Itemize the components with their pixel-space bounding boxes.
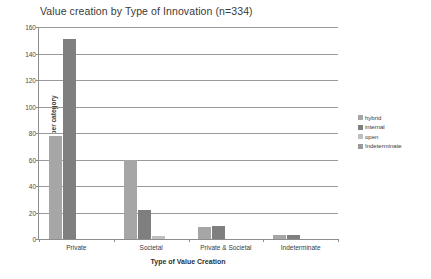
- legend-label: hybrid: [365, 115, 381, 121]
- chart-legend: hybridinternalopenIndeterminate: [358, 113, 402, 151]
- legend-item[interactable]: internal: [358, 123, 402, 132]
- chart-title: Value creation by Type of Innovation (n=…: [40, 5, 253, 17]
- x-tick-label: Societal: [140, 244, 163, 251]
- y-tick-label: 80: [29, 130, 36, 137]
- bar-group: [39, 27, 114, 239]
- y-tick-label: 160: [25, 24, 36, 31]
- x-tick-mark: [338, 239, 339, 242]
- y-tick-label: 20: [29, 209, 36, 216]
- x-tick-label: Indeterminate: [281, 244, 321, 251]
- bar: [124, 160, 137, 240]
- bar: [212, 226, 225, 239]
- bar: [287, 235, 300, 239]
- x-tick-mark: [189, 239, 190, 242]
- x-tick-mark: [263, 239, 264, 242]
- legend-swatch-icon: [358, 144, 363, 149]
- bar-group: [263, 27, 338, 239]
- legend-swatch-icon: [358, 125, 363, 130]
- bar: [273, 235, 286, 239]
- legend-label: open: [365, 134, 378, 140]
- x-tick-label: Private: [66, 244, 86, 251]
- bar: [152, 236, 165, 239]
- x-axis-title: Type of Value Creation: [38, 258, 338, 265]
- bar: [49, 136, 62, 239]
- chart-container: Value creation by Type of Innovation (n=…: [0, 0, 431, 279]
- bar: [138, 210, 151, 239]
- y-tick-label: 40: [29, 183, 36, 190]
- bar: [63, 39, 76, 239]
- y-tick-label: 100: [25, 103, 36, 110]
- y-tick-label: 140: [25, 50, 36, 57]
- plot-area: 020406080100120140160PrivateSocietalPriv…: [38, 27, 338, 240]
- x-tick-label: Private & Societal: [200, 244, 251, 251]
- legend-swatch-icon: [358, 134, 363, 139]
- bar: [198, 227, 211, 239]
- legend-item[interactable]: open: [358, 132, 402, 141]
- legend-label: internal: [365, 124, 385, 130]
- y-tick-label: 120: [25, 77, 36, 84]
- bar-group: [189, 27, 264, 239]
- y-tick-label: 0: [32, 236, 36, 243]
- bar-group: [114, 27, 189, 239]
- x-tick-mark: [114, 239, 115, 242]
- x-tick-mark: [39, 239, 40, 242]
- legend-swatch-icon: [358, 115, 363, 120]
- legend-label: Indeterminate: [365, 143, 402, 149]
- legend-item[interactable]: Indeterminate: [358, 142, 402, 151]
- legend-item[interactable]: hybrid: [358, 113, 402, 122]
- y-tick-label: 60: [29, 156, 36, 163]
